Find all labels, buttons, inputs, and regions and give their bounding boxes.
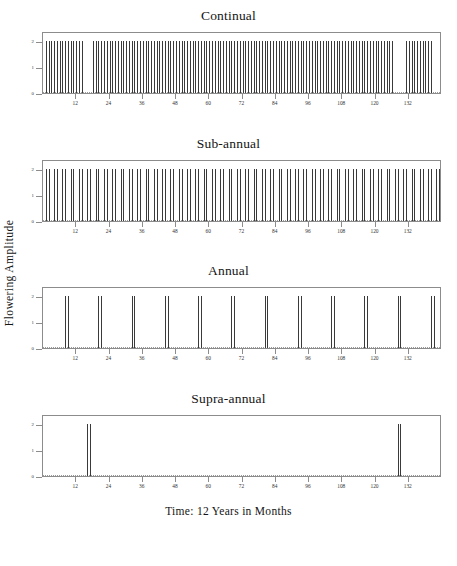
flowering-spike [129, 169, 130, 221]
flowering-spike [409, 41, 410, 93]
flowering-spike [373, 41, 374, 93]
flowering-spike [439, 169, 440, 221]
flowering-spike [165, 169, 166, 221]
x-tick [308, 349, 309, 354]
flowering-spike [231, 296, 232, 348]
flowering-spike [140, 169, 141, 221]
flowering-spike [395, 169, 396, 221]
flowering-spike [303, 41, 304, 93]
x-tick [142, 222, 143, 227]
x-tick-label: 48 [164, 356, 186, 361]
flowering-spike [206, 41, 207, 93]
x-tick [175, 349, 176, 354]
x-tick-label: 120 [364, 484, 386, 489]
flowering-spike [68, 296, 69, 348]
flowering-spike [370, 169, 371, 221]
x-tick-label: 72 [231, 484, 253, 489]
flowering-spike [417, 41, 418, 93]
x-tick-label: 84 [264, 484, 286, 489]
flowering-spike [265, 169, 266, 221]
x-tick-label: 60 [197, 356, 219, 361]
flowering-spike [367, 296, 368, 348]
flowering-spike [220, 41, 221, 93]
x-tick-label: 96 [297, 101, 319, 106]
x-tick-label: 132 [397, 484, 419, 489]
x-tick [275, 477, 276, 482]
flowering-spike [98, 296, 99, 348]
x-tick-label: 84 [264, 101, 286, 106]
y-tick-label: 1 [20, 66, 34, 71]
flowering-spike [170, 41, 171, 93]
plot-inner-supra-annual [43, 416, 440, 476]
flowering-spike [157, 41, 158, 93]
flowering-spike [101, 296, 102, 348]
flowering-spike [348, 169, 349, 221]
flowering-spike [73, 41, 74, 93]
flowering-spike [337, 169, 338, 221]
flowering-spike [101, 41, 102, 93]
flowering-spike [206, 169, 207, 221]
flowering-spike [143, 41, 144, 93]
x-tick-label: 12 [64, 101, 86, 106]
y-tick-label: 0 [20, 347, 34, 352]
x-tick [175, 222, 176, 227]
flowering-spike [331, 41, 332, 93]
flowering-spike [245, 169, 246, 221]
flowering-spike [215, 169, 216, 221]
flowering-spike [204, 41, 205, 93]
flowering-spike [287, 169, 288, 221]
flowering-spike [176, 41, 177, 93]
flowering-spike [54, 41, 55, 93]
plot-area-sub-annual [42, 160, 441, 222]
x-tick [341, 349, 342, 354]
flowering-spike [193, 41, 194, 93]
x-tick-label: 84 [264, 356, 286, 361]
x-tick [175, 94, 176, 99]
flowering-spike [90, 169, 91, 221]
flowering-spike [93, 41, 94, 93]
flowering-spike [104, 41, 105, 93]
flowering-spike [115, 169, 116, 221]
y-tick [36, 323, 42, 324]
flowering-spike [229, 169, 230, 221]
zero-baseline [43, 475, 440, 476]
flowering-spike [262, 41, 263, 93]
flowering-spike [223, 169, 224, 221]
flowering-spike [281, 41, 282, 93]
flowering-spike [323, 169, 324, 221]
flowering-spike [345, 41, 346, 93]
flowering-spike [400, 296, 401, 348]
flowering-spike [265, 41, 266, 93]
flowering-spike [364, 296, 365, 348]
flowering-spike [298, 296, 299, 348]
plot-inner-annual [43, 288, 440, 348]
x-tick [375, 349, 376, 354]
flowering-spike [431, 41, 432, 93]
flowering-spike [398, 424, 399, 476]
y-tick [36, 42, 42, 43]
x-tick [242, 222, 243, 227]
flowering-spike [292, 41, 293, 93]
flowering-spike [331, 296, 332, 348]
flowering-spike [276, 41, 277, 93]
flowering-spike [218, 41, 219, 93]
flowering-spike [403, 169, 404, 221]
flowering-spike [121, 169, 122, 221]
x-tick [275, 222, 276, 227]
flowering-spike [364, 169, 365, 221]
flowering-spike [273, 41, 274, 93]
flowering-spike [57, 169, 58, 221]
panel-title-annual: Annual [0, 263, 457, 279]
x-tick [275, 349, 276, 354]
plot-inner-sub-annual [43, 161, 440, 221]
flowering-spike [389, 169, 390, 221]
flowering-spike [298, 169, 299, 221]
flowering-spike [68, 41, 69, 93]
flowering-spike [60, 41, 61, 93]
flowering-spike [298, 41, 299, 93]
flowering-spike [295, 169, 296, 221]
x-tick [341, 222, 342, 227]
y-tick-label: 0 [20, 92, 34, 97]
x-tick [208, 94, 209, 99]
x-tick-label: 60 [197, 101, 219, 106]
